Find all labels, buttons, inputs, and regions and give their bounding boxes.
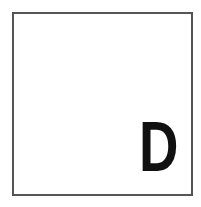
letter-card: D: [12, 12, 193, 196]
card-letter: D: [139, 112, 178, 182]
